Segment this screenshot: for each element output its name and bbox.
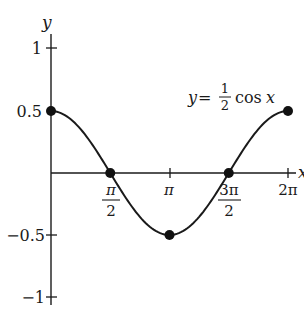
equation-x: x	[266, 88, 275, 107]
data-point	[224, 168, 234, 178]
x-tick-label-3pi-over-2: 3π 2	[218, 181, 241, 220]
x-tick-label-pi: π	[163, 181, 175, 199]
y-axis-label: y	[41, 12, 52, 32]
x-tick-label-3pi-over-2-num: 3π	[219, 181, 239, 199]
equation-denominator: 2	[221, 98, 229, 113]
cosine-chart: y x 1 0.5 −0.5 −1 π 2 π 3π 2 2π y = 1 2 …	[0, 0, 304, 309]
equation-y: y	[187, 88, 198, 107]
equation-cos: cos	[235, 88, 262, 107]
y-tick-label-neg-1: −1	[21, 288, 45, 307]
x-tick-label-3pi-over-2-den: 2	[224, 202, 234, 220]
x-tick-label-pi-over-2-num: π	[105, 181, 117, 199]
y-tick-label-neg-0.5: −0.5	[6, 226, 45, 245]
equation-equals: =	[198, 88, 211, 107]
y-tick-label-1: 1	[32, 39, 42, 58]
y-tick-label-0.5: 0.5	[17, 102, 42, 121]
x-axis-label: x	[298, 162, 304, 182]
data-point	[283, 106, 293, 116]
equation-annotation: y = 1 2 cos x	[187, 81, 275, 113]
x-tick-label-pi-over-2-den: 2	[106, 202, 116, 220]
data-point	[105, 168, 115, 178]
data-point	[165, 230, 175, 240]
equation-numerator: 1	[221, 81, 229, 96]
x-tick-label-pi-over-2: π 2	[102, 181, 120, 220]
x-tick-label-2pi: 2π	[278, 181, 298, 199]
data-point	[46, 106, 56, 116]
